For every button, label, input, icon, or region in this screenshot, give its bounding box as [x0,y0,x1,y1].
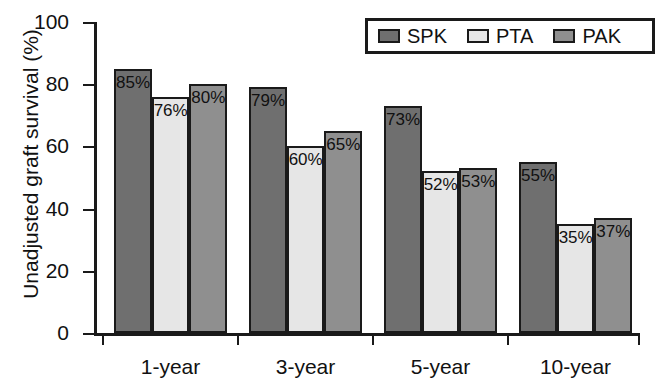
x-axis-tick [237,333,239,345]
bar-pak-5-year: 53% [459,168,497,333]
x-axis-tick [102,333,104,345]
legend-item-pak: PAK [553,25,621,48]
legend-swatch-icon [378,29,400,43]
y-axis-tick-label: 100 [34,10,69,34]
y-axis-tick-label: 40 [46,196,69,220]
bar-value-label: 73% [386,110,420,130]
y-axis-tick: 20 [83,271,94,273]
bar-value-label: 53% [461,172,495,192]
x-axis-line [94,333,640,336]
y-axis-tick: 40 [83,209,94,211]
y-axis-title: Unadjusted graft survival (%) [19,0,43,329]
bar-pak-10-year: 37% [594,218,632,333]
x-axis-tick [507,333,509,345]
x-axis-category-label: 5-year [411,355,471,379]
legend-item-spk: SPK [378,25,447,48]
bar-pak-1-year: 80% [189,84,227,333]
bar-value-label: 60% [289,150,323,170]
y-axis-tick: 100 [83,22,94,24]
y-axis-tick: 60 [83,146,94,148]
y-axis-tick-label: 80 [46,72,69,96]
y-axis-tick-label: 0 [57,321,69,345]
legend-label: SPK [407,25,447,48]
bar-value-label: 55% [521,166,555,186]
x-axis-category-label: 10-year [540,355,611,379]
y-axis-tick-label: 20 [46,258,69,282]
y-axis-tick: 80 [83,84,94,86]
legend-label: PTA [496,25,533,48]
bar-spk-10-year: 55% [519,162,557,333]
legend-item-pta: PTA [467,25,533,48]
x-axis-tick [372,333,374,345]
bar-value-label: 85% [116,73,150,93]
bar-value-label: 37% [596,222,630,242]
bar-value-label: 76% [154,101,188,121]
x-axis-category-label: 3-year [276,355,336,379]
bar-group: 73%52%53% [384,22,497,333]
bar-pta-10-year: 35% [557,224,595,333]
chart-legend: SPKPTAPAK [365,18,655,54]
plot-area: 020406080100 85%76%80%79%60%65%73%52%53%… [94,22,640,333]
bar-value-label: 80% [191,88,225,108]
legend-swatch-icon [553,29,575,43]
x-axis-category-label: 1-year [141,355,201,379]
bar-value-label: 35% [559,228,593,248]
x-axis-tick [638,333,640,345]
bar-pta-3-year: 60% [287,146,325,333]
bar-spk-5-year: 73% [384,106,422,333]
bar-group: 55%35%37% [519,22,632,333]
bar-pak-3-year: 65% [324,131,362,333]
bar-pta-1-year: 76% [152,97,190,333]
y-axis-tick: 0 [83,333,94,335]
bar-value-label: 52% [424,175,458,195]
bar-value-label: 65% [326,135,360,155]
bar-spk-1-year: 85% [114,69,152,333]
bar-spk-3-year: 79% [249,87,287,333]
bar-value-label: 79% [251,91,285,111]
legend-label: PAK [582,25,621,48]
legend-swatch-icon [467,29,489,43]
bar-pta-5-year: 52% [422,171,460,333]
y-axis-tick-label: 60 [46,134,69,158]
bar-group: 79%60%65% [249,22,362,333]
y-axis-line [94,22,97,333]
bar-group: 85%76%80% [114,22,227,333]
